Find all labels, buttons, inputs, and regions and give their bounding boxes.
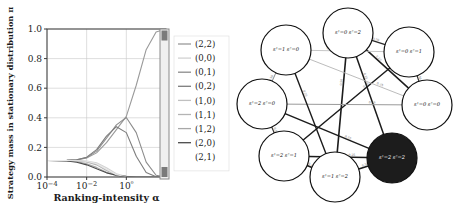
plot-area <box>47 29 166 177</box>
legend-label: (1,1) <box>195 110 215 120</box>
graph-node[interactable]: s¹=2 s²=0 <box>237 79 287 129</box>
graph-node[interactable]: s¹=2 s²=1 <box>259 131 309 181</box>
x-axis-label: Ranking-intensity α <box>53 192 160 203</box>
y-axis-label: Strategy mass in stationary distribution… <box>5 7 15 199</box>
graph-node[interactable]: s¹=2 s²=2 <box>367 133 417 183</box>
edge-weight-label: 0.25 <box>375 54 383 62</box>
graph-node[interactable]: s¹=0 s²=1 <box>384 27 434 77</box>
diagram-svg: 0.500.500.250.250.500.250.250.250.500.25… <box>235 0 469 218</box>
node-label: s¹=0 s²=0 <box>414 101 441 107</box>
legend-label: (1,2) <box>195 124 215 134</box>
node-label: s¹=2 s²=1 <box>271 152 297 158</box>
node-label: s¹=1 s²=0 <box>273 46 300 52</box>
stationary-distribution-chart: 0.00.20.40.60.81.010−410−210⁰Ranking-int… <box>0 0 235 218</box>
node-label: s¹=1 s²=2 <box>322 173 348 179</box>
graph-node[interactable]: s¹=0 s²=0 <box>402 80 452 130</box>
node-label: s¹=2 s²=0 <box>249 100 276 106</box>
node-label: s¹=0 s²=2 <box>335 29 361 35</box>
node-label: s¹=0 s²=1 <box>396 48 422 54</box>
legend-label: (2,2) <box>195 39 215 49</box>
legend-label: (2,0) <box>195 138 215 148</box>
y-tick-label: 0.6 <box>28 83 43 93</box>
legend-label: (1,0) <box>195 96 215 106</box>
scrollbar-thumb-bottom[interactable] <box>162 167 168 177</box>
x-tick-label: 10−2 <box>76 180 97 191</box>
edge-weight-label: 0.25 <box>369 100 376 104</box>
edge <box>356 57 383 135</box>
y-tick-label: 0.4 <box>28 113 43 123</box>
state-transition-diagram: 0.500.500.250.250.500.250.250.250.500.25… <box>235 0 469 218</box>
graph-node[interactable]: s¹=0 s²=2 <box>323 8 373 58</box>
y-tick-label: 0.2 <box>28 143 42 153</box>
legend-label: (2,1) <box>195 152 215 162</box>
scrollbar-thumb[interactable] <box>162 31 168 41</box>
node-label: s¹=2 s²=2 <box>379 154 405 160</box>
legend-label: (0,1) <box>195 67 215 77</box>
edge-weight-label: 0.50 <box>339 79 344 86</box>
legend-label: (0,0) <box>195 53 215 63</box>
graph-node[interactable]: s¹=1 s²=2 <box>310 152 360 202</box>
edge <box>287 104 402 105</box>
figure-root: 0.00.20.40.60.81.010−410−210⁰Ranking-int… <box>0 0 469 218</box>
graph-node[interactable]: s¹=1 s²=0 <box>261 25 311 75</box>
chart-svg: 0.00.20.40.60.81.010−410−210⁰Ranking-int… <box>0 0 235 218</box>
legend-label: (0,2) <box>195 81 215 91</box>
y-tick-label: 1.0 <box>28 24 43 34</box>
x-tick-label: 10−4 <box>36 180 57 191</box>
y-tick-label: 0.8 <box>28 54 43 64</box>
scrollbar-track[interactable] <box>160 29 169 179</box>
x-tick-label: 10⁰ <box>119 180 133 191</box>
vertical-scrollbar[interactable] <box>160 29 169 179</box>
